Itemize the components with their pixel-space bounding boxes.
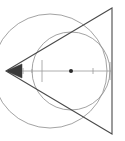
geometry-figure [0, 0, 125, 141]
center-point-marker [69, 69, 73, 73]
geometry-canvas [0, 0, 125, 141]
